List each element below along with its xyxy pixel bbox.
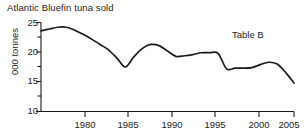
data-series-line — [41, 27, 294, 83]
chart-container: Atlantic Bluefin tuna sold Table B 000 t… — [0, 0, 307, 138]
y-axis-ticks — [36, 23, 41, 112]
x-axis-ticks — [85, 112, 294, 118]
x-axis — [41, 112, 294, 118]
chart-plot-area — [0, 0, 307, 138]
y-axis — [36, 23, 41, 112]
